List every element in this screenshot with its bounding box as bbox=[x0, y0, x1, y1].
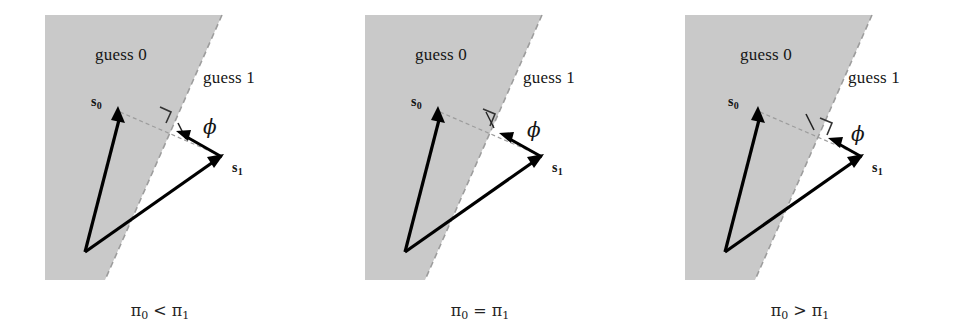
guess-0-label: guess 0 bbox=[95, 46, 147, 63]
panel-pi0-greater-pi1: guess 0 guess 1 s0 s1 ϕ π0>π1 bbox=[640, 0, 960, 335]
guess-1-label: guess 1 bbox=[203, 69, 255, 86]
caption-relation: > bbox=[793, 301, 806, 320]
guess-1-label: guess 1 bbox=[523, 69, 575, 86]
vector-s1-label: s1 bbox=[232, 161, 243, 177]
vector-s1-label-sub: 1 bbox=[558, 166, 563, 177]
caption-rhs-sub: 1 bbox=[502, 309, 509, 322]
panel-1-caption: π0<π1 bbox=[0, 303, 320, 321]
vector-s0-label-base: s bbox=[728, 94, 733, 109]
vector-s0-label-sub: 0 bbox=[97, 100, 102, 111]
caption-rhs-sub: 1 bbox=[822, 309, 829, 322]
panel-2-caption: π0=π1 bbox=[320, 303, 640, 321]
phi-label: ϕ bbox=[527, 120, 541, 140]
guess-0-label: guess 0 bbox=[415, 46, 467, 63]
vector-s1-label-sub: 1 bbox=[878, 166, 883, 177]
caption-lhs-sub: 0 bbox=[781, 309, 788, 322]
panel-3-graphic bbox=[640, 0, 960, 335]
caption-relation: < bbox=[153, 301, 166, 320]
panel-pi0-less-pi1: guess 0 guess 1 s0 s1 ϕ π0<π1 bbox=[0, 0, 320, 335]
figure-root: guess 0 guess 1 s0 s1 ϕ π0<π1 bbox=[0, 0, 960, 335]
vector-s1-label-base: s bbox=[552, 160, 557, 175]
vector-s0-label: s0 bbox=[91, 95, 102, 111]
guess-1-label: guess 1 bbox=[848, 69, 900, 86]
vector-s0-label-sub: 0 bbox=[417, 100, 422, 111]
caption-lhs: π bbox=[131, 301, 142, 320]
caption-lhs-sub: 0 bbox=[461, 309, 468, 322]
caption-rhs: π bbox=[812, 301, 823, 320]
vector-s1-label-base: s bbox=[872, 160, 877, 175]
caption-lhs: π bbox=[771, 301, 782, 320]
vector-s1-label: s1 bbox=[552, 161, 563, 177]
vector-s1-label-sub: 1 bbox=[238, 166, 243, 177]
vector-s0-label: s0 bbox=[411, 95, 422, 111]
caption-rhs-sub: 1 bbox=[182, 309, 189, 322]
phi-label: ϕ bbox=[203, 117, 217, 137]
panel-1-graphic bbox=[0, 0, 320, 335]
guess-0-label: guess 0 bbox=[740, 46, 792, 63]
caption-relation: = bbox=[473, 301, 486, 320]
vector-s0-label-base: s bbox=[91, 94, 96, 109]
caption-lhs-sub: 0 bbox=[141, 309, 148, 322]
caption-lhs: π bbox=[451, 301, 462, 320]
vector-s0-label-base: s bbox=[411, 94, 416, 109]
vector-s1-label: s1 bbox=[872, 161, 883, 177]
panel-3-caption: π0>π1 bbox=[640, 303, 960, 321]
phi-label: ϕ bbox=[851, 124, 865, 144]
vector-s0-label: s0 bbox=[728, 95, 739, 111]
panel-2-graphic bbox=[320, 0, 640, 335]
vector-s0-label-sub: 0 bbox=[734, 100, 739, 111]
vector-s1-label-base: s bbox=[232, 160, 237, 175]
caption-rhs: π bbox=[492, 301, 503, 320]
caption-rhs: π bbox=[172, 301, 183, 320]
panel-pi0-equal-pi1: guess 0 guess 1 s0 s1 ϕ π0=π1 bbox=[320, 0, 640, 335]
